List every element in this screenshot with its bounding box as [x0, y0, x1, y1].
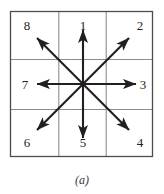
direction-label-6: 6	[24, 135, 31, 150]
direction-label-4: 4	[137, 135, 144, 150]
direction-label-5: 5	[80, 135, 87, 150]
direction-label-2: 2	[137, 18, 144, 33]
direction-label-8: 8	[24, 18, 31, 33]
direction-label-3: 3	[140, 77, 147, 92]
figure-container: 1 2 3 4 5 6 7 8 (a)	[0, 0, 164, 194]
direction-label-1: 1	[80, 18, 87, 33]
figure-caption: (a)	[75, 173, 89, 187]
direction-code-diagram: 1 2 3 4 5 6 7 8 (a)	[0, 0, 164, 194]
direction-label-7: 7	[22, 77, 29, 92]
